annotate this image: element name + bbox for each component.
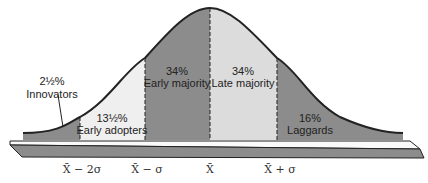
tick-mean: X̄ — [206, 163, 214, 176]
laggards-label: Laggards — [287, 124, 333, 136]
innovators-pct: 2½% — [39, 75, 64, 87]
tick-mean-minus-sigma: X̄ − σ — [131, 163, 163, 176]
late-majority-label: Late majority — [212, 77, 275, 89]
late-majority-pct: 34% — [232, 65, 254, 77]
early-adopters-label: Early adopters — [77, 124, 148, 136]
tick-mean-minus-2sigma: X̄ − 2σ — [63, 163, 102, 176]
early-majority-label: Early majority — [144, 77, 211, 89]
segment-innovators — [0, 0, 80, 140]
adoption-curve-chart: 2½% Innovators 13½% Early adopters 34% E… — [0, 0, 428, 183]
early-adopters-pct: 13½% — [96, 112, 127, 124]
bell-curve-area — [0, 0, 417, 140]
innovators-label: Innovators — [26, 88, 78, 100]
tick-mean-plus-sigma: X̄ + σ — [264, 163, 296, 176]
early-majority-pct: 34% — [166, 65, 188, 77]
laggards-pct: 16% — [299, 112, 321, 124]
